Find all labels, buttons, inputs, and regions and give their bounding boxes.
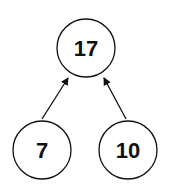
- sum-tree-diagram: 17 7 10: [0, 0, 181, 196]
- node-left-label: 7: [36, 138, 48, 163]
- node-root-label: 17: [74, 36, 98, 61]
- edge-right-to-root: [104, 78, 126, 119]
- node-right-label: 10: [116, 138, 140, 163]
- node-right: 10: [99, 121, 157, 179]
- node-left: 7: [13, 121, 71, 179]
- edge-left-to-root: [42, 78, 68, 119]
- node-root: 17: [57, 19, 115, 77]
